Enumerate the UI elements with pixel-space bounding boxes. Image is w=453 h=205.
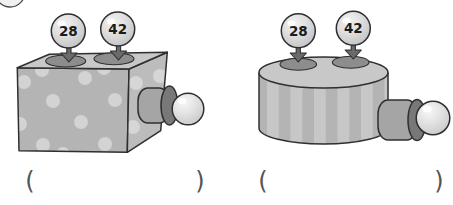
polka-dot <box>78 71 92 85</box>
input-hole <box>332 56 369 68</box>
corner-bubble-fragment <box>0 0 25 7</box>
polka-dot <box>13 117 27 131</box>
output-ball <box>172 93 204 125</box>
polka-dot <box>17 75 31 89</box>
ball-highlight <box>178 98 186 104</box>
input-ball-number: 42 <box>344 20 363 36</box>
polka-dot <box>98 137 112 151</box>
input-ball-number: 28 <box>289 23 308 39</box>
polka-dot <box>36 138 50 152</box>
machine-dotted-box: 28 42 <box>13 12 204 161</box>
input-ball-number: 42 <box>108 21 127 37</box>
ball-highlight <box>423 106 432 113</box>
figure-canvas: 28 42 <box>0 0 453 205</box>
input-ball: 28 <box>281 14 315 48</box>
answer-blank-left[interactable]: ( ) <box>25 167 204 195</box>
input-ball: 42 <box>101 12 135 46</box>
answer-blank-right[interactable]: ( ) <box>258 167 443 195</box>
paren-open: ( <box>258 167 267 195</box>
polka-dot <box>108 93 122 107</box>
polka-dot <box>46 94 60 108</box>
polka-dot <box>129 76 143 90</box>
input-ball: 42 <box>336 11 370 45</box>
polka-dot <box>56 147 70 161</box>
input-ball: 28 <box>51 14 85 48</box>
input-ball-number: 28 <box>59 23 78 39</box>
output-ball <box>416 101 450 135</box>
paren-open: ( <box>25 167 34 195</box>
worksheet-figure: 28 42 <box>0 0 453 205</box>
polka-dot <box>74 115 88 129</box>
paren-close: ) <box>195 167 204 195</box>
box-front-face <box>17 68 129 153</box>
machine-striped-cylinder: 28 42 <box>259 11 450 148</box>
paren-close: ) <box>434 167 443 195</box>
